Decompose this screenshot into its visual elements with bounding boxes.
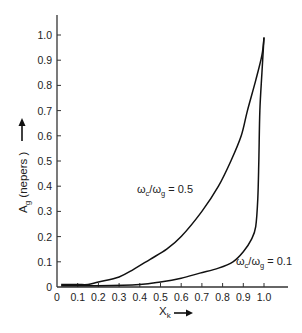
svg-text:Xk: Xk: [159, 305, 172, 320]
annotation-series-0-1: ωc/ωg = 0.1: [236, 255, 292, 270]
y-tick-label: 0.2: [37, 231, 52, 243]
y-axis-label: Ag (nepers ): [17, 118, 32, 213]
y-tick-label: 1.0: [37, 29, 52, 41]
x-tick-label: 0.4: [132, 291, 147, 303]
y-tick-label: 0.8: [37, 79, 52, 91]
x-tick-label: 0: [54, 291, 60, 303]
x-tick-label: 0.6: [174, 291, 189, 303]
svg-text:ωc/ωg = 0.5: ωc/ωg = 0.5: [137, 183, 193, 198]
arrow-right-icon: [174, 310, 193, 317]
y-tick-label: 0.9: [37, 54, 52, 66]
x-tick-label: 0.1: [70, 291, 85, 303]
chart: 00.10.20.30.40.50.60.70.80.91.0 00.10.20…: [0, 0, 302, 333]
x-axis-label: Xk: [159, 305, 193, 320]
curve-ratio-0-5: [61, 38, 264, 285]
y-tick-label: 0.7: [37, 105, 52, 117]
y-tick-label: 0.1: [37, 256, 52, 268]
x-tick-label: 1.0: [257, 291, 272, 303]
svg-text:Ag (nepers ): Ag (nepers ): [17, 151, 32, 213]
y-tick-label: 0.5: [37, 155, 52, 167]
curve-ratio-0-1: [61, 38, 264, 286]
y-tick-label: 0.6: [37, 130, 52, 142]
y-tick-label: 0.4: [37, 180, 52, 192]
y-tick-label: 0.3: [37, 205, 52, 217]
x-tick-label: 0.2: [91, 291, 106, 303]
x-tick-label: 0.9: [236, 291, 251, 303]
arrow-up-icon: [19, 118, 26, 141]
svg-text:ωc/ωg = 0.1: ωc/ωg = 0.1: [236, 255, 292, 270]
axes: [57, 15, 288, 287]
x-tick-label: 0.5: [153, 291, 168, 303]
x-tick-label: 0.8: [215, 291, 230, 303]
curves: [61, 38, 264, 286]
y-tick-label: 0: [46, 281, 52, 293]
x-tick-label: 0.7: [195, 291, 210, 303]
annotation-series-0-5: ωc/ωg = 0.5: [137, 183, 193, 198]
x-tick-label: 0.3: [112, 291, 127, 303]
